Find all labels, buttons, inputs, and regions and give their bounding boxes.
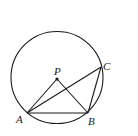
label-c: C bbox=[103, 60, 111, 72]
label-a: A bbox=[15, 113, 23, 125]
point-p-dot bbox=[55, 77, 58, 80]
label-p: P bbox=[53, 65, 61, 77]
geometry-diagram: P A B C bbox=[0, 0, 138, 136]
label-b: B bbox=[88, 115, 95, 127]
segment-pa bbox=[27, 79, 57, 113]
